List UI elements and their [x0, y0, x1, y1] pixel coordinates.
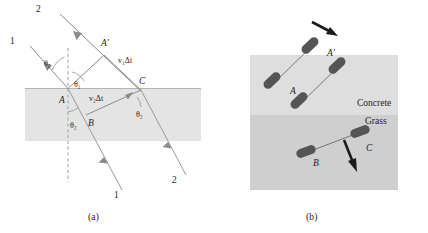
wheel-a-right	[300, 35, 321, 55]
incident-ray-2	[60, 14, 138, 89]
label-b-point-a: A	[289, 86, 296, 96]
label-ray-1-left: 1	[10, 36, 15, 46]
label-concrete: Concrete	[357, 98, 391, 108]
label-point-c: C	[139, 76, 146, 86]
label-b-point-b: B	[313, 158, 319, 168]
lower-medium-shading	[25, 88, 201, 141]
theta1-upper-arc	[53, 57, 65, 70]
label-theta2-right: θ₂	[136, 110, 143, 119]
incident-ray-2-arrowhead	[73, 31, 82, 40]
label-point-a: A	[58, 95, 65, 105]
panel-b-group: A A′ B C Concrete Grass	[250, 22, 398, 190]
label-point-a-prime: A′	[100, 38, 110, 48]
label-b-point-a-prime: A′	[326, 48, 336, 58]
panel-a-group: 2 1 1 2 A′ A B C θ₁ θ₁ θ₂ θ₂ v₁Δt v₂Δt	[10, 4, 201, 200]
label-ray-2-bottom: 2	[172, 175, 177, 185]
label-theta1-upper: θ₁	[44, 59, 51, 68]
label-b-point-c: C	[366, 143, 373, 153]
figure-canvas: 2 1 1 2 A′ A B C θ₁ θ₁ θ₂ θ₂ v₁Δt v₂Δt	[0, 0, 428, 233]
grass-surface	[250, 115, 398, 190]
caption-a: (a)	[88, 212, 99, 222]
label-v2-delta-t: v₂Δt	[89, 94, 104, 103]
label-theta2-normal: θ₂	[70, 121, 77, 130]
label-grass: Grass	[365, 116, 387, 126]
label-ray-2-top: 2	[36, 4, 41, 14]
label-theta1-lower: θ₁	[74, 80, 81, 89]
physics-figure: 2 1 1 2 A′ A B C θ₁ θ₁ θ₂ θ₂ v₁Δt v₂Δt	[0, 0, 428, 233]
label-ray-1-bottom: 1	[114, 190, 119, 200]
caption-b: (b)	[306, 212, 318, 222]
label-point-b: B	[88, 118, 94, 128]
label-v1-delta-t: v₁Δt	[118, 56, 133, 65]
direction-arrow-top-head	[326, 27, 338, 36]
